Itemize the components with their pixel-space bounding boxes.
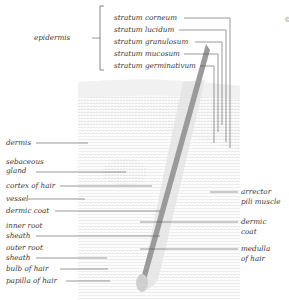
medulla-label-1: medulla: [241, 245, 270, 253]
dermic-coat-right-label-2: coat: [241, 228, 257, 236]
stratum-germinativum-label: stratum germinativum: [114, 62, 196, 70]
inner-root-label-1: inner root: [6, 222, 43, 230]
arrector-label-2: pili muscle: [241, 198, 281, 206]
dermis-label: dermis: [6, 139, 31, 147]
sebaceous-label-2: gland: [6, 167, 26, 175]
stratum-corneum-label: stratum corneum: [114, 14, 177, 22]
stratum-mucosum-label: stratum mucosum: [114, 50, 180, 58]
dermic-coat-left-label: dermic coat: [6, 207, 49, 215]
inner-root-label-2: sheath: [6, 232, 30, 240]
medulla-label-2: of hair: [241, 255, 265, 263]
papilla-of-hair-label: papilla of hair: [6, 277, 57, 285]
corner-mark: ©: [284, 16, 289, 24]
stratum-lucidum-label: stratum lucidum: [114, 26, 174, 34]
outer-root-label-1: outer root: [6, 244, 43, 252]
sebaceous-label-1: sebaceous: [6, 158, 44, 166]
cortex-of-hair-label: cortex of hair: [6, 182, 55, 190]
vessel-label: vessel: [6, 195, 28, 203]
stratum-granulosum-label: stratum granulosum: [114, 38, 188, 46]
epidermis-label: epidermis: [34, 34, 70, 42]
arrector-label-1: arrector: [241, 188, 271, 196]
bulb-of-hair-label: bulb of hair: [6, 265, 48, 273]
outer-root-label-2: sheath: [6, 254, 30, 262]
skin-hair-diagram: epidermis stratum corneum stratum lucidu…: [0, 0, 289, 300]
dermic-coat-right-label-1: dermic: [241, 218, 266, 226]
